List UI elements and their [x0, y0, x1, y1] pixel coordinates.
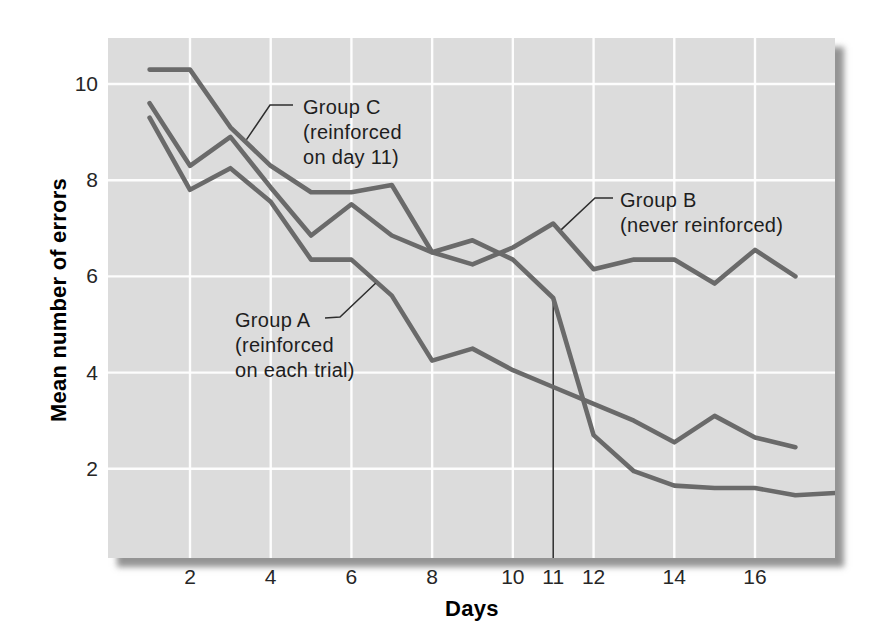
- y-tick-label: 2: [48, 457, 98, 481]
- x-tick-label: 4: [265, 565, 277, 589]
- annotation-line: (reinforced: [303, 120, 402, 145]
- figure: Mean number of errors Group C (reinforce…: [0, 0, 885, 644]
- x-tick-label: 12: [582, 565, 605, 589]
- plot-area: Group C (reinforced on day 11) Group B (…: [108, 38, 835, 558]
- annotation-group-a: Group A (reinforced on each trial): [235, 308, 355, 383]
- x-tick-label: 10: [501, 565, 524, 589]
- annotation-line: (reinforced: [235, 333, 355, 358]
- x-axis-title: Days: [445, 596, 499, 622]
- y-tick-label: 8: [48, 168, 98, 192]
- y-tick-label: 4: [48, 361, 98, 385]
- x-tick-label: 6: [346, 565, 358, 589]
- annotation-line: Group B: [620, 188, 783, 213]
- annotation-group-b: Group B (never reinforced): [620, 188, 783, 238]
- group-a-line: [150, 118, 796, 448]
- x-tick-label: 11: [542, 565, 564, 589]
- annotation-line: on each trial): [235, 358, 355, 383]
- annotation-line: Group A: [235, 308, 355, 333]
- x-tick-label: 2: [184, 565, 196, 589]
- x-tick-label: 14: [663, 565, 686, 589]
- group-c-line: [150, 70, 835, 496]
- y-axis-title: Mean number of errors: [46, 178, 72, 422]
- annotation-line: (never reinforced): [620, 213, 783, 238]
- annotation-group-c: Group C (reinforced on day 11): [303, 95, 402, 170]
- y-tick-label: 10: [48, 72, 98, 96]
- annotation-line: on day 11): [303, 145, 402, 170]
- annotation-line: Group C: [303, 95, 402, 120]
- y-tick-label: 6: [48, 264, 98, 288]
- x-tick-label: 16: [743, 565, 766, 589]
- chart-canvas: [108, 38, 835, 558]
- x-tick-label: 8: [426, 565, 438, 589]
- annotation-pointer-group-b: [561, 198, 613, 230]
